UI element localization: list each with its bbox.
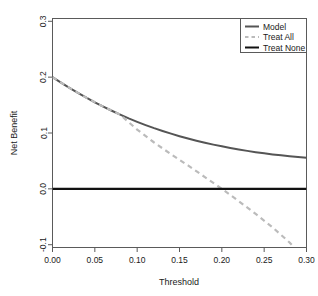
- x-tick-label: 0.20: [214, 255, 231, 265]
- y-tick-label: 0.3: [39, 15, 49, 27]
- x-tick-label: 0.00: [44, 255, 61, 265]
- x-tick-label: 0.10: [129, 255, 146, 265]
- y-tick-label: 0.2: [39, 71, 49, 83]
- y-tick-label: 0.1: [39, 127, 49, 139]
- legend-label-model: Model: [263, 22, 286, 32]
- y-tick-label: 0.0: [39, 183, 49, 195]
- x-tick-label: 0.15: [171, 255, 188, 265]
- chart-legend: ModelTreat AllTreat None: [241, 19, 307, 53]
- decision-curve-figure: 0.000.050.100.150.200.250.30 -0.10.00.10…: [0, 0, 318, 296]
- legend-label-treat-none: Treat None: [263, 43, 305, 53]
- x-tick-label: 0.05: [87, 255, 104, 265]
- chart-canvas: 0.000.050.100.150.200.250.30 -0.10.00.10…: [0, 0, 318, 296]
- x-tick-label: 0.25: [256, 255, 273, 265]
- y-axis-title: Net Benefit: [9, 110, 19, 155]
- y-tick-label: -0.1: [39, 237, 49, 252]
- legend-label-treat-all: Treat All: [263, 32, 294, 42]
- x-axis-title: Threshold: [159, 277, 199, 287]
- x-tick-label: 0.30: [298, 255, 315, 265]
